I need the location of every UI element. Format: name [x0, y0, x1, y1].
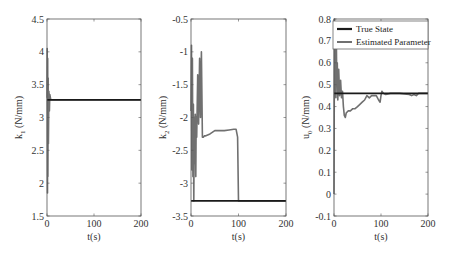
x-tick-label: 100: [374, 218, 389, 229]
y-tick-label: 0.4: [319, 101, 332, 112]
estimated-parameter-line: [47, 49, 141, 193]
axes-box: [47, 19, 141, 216]
y-tick-label: 0: [326, 189, 331, 200]
y-tick-label: -2: [180, 112, 188, 123]
y-tick-label: -3.5: [172, 211, 188, 222]
y-tick-label: 2: [39, 178, 44, 189]
y-tick-label: 0.3: [319, 123, 332, 134]
y-tick-label: 4: [39, 46, 44, 57]
y-tick-label: 2.5: [32, 145, 45, 156]
y-tick-label: 0.6: [319, 57, 332, 68]
panel-k1: 1.522.533.544.50100200t(s)k1 (N/mm): [13, 14, 149, 244]
x-tick-label: 200: [134, 218, 149, 229]
y-axis-label: u0 (N/mm): [300, 96, 314, 139]
y-tick-label: 1.5: [32, 211, 45, 222]
y-tick-label: -1.5: [172, 79, 188, 90]
legend: True State Estimated Parameter: [333, 21, 431, 49]
x-tick-label: 0: [189, 218, 194, 229]
x-tick-label: 100: [87, 218, 102, 229]
estimated-parameter-line: [191, 45, 286, 201]
y-tick-label: 4.5: [32, 14, 45, 25]
y-tick-label: -3: [180, 178, 188, 189]
y-tick-label: 0.8: [319, 14, 332, 25]
x-axis-label: t(s): [374, 231, 387, 243]
x-axis-label: t(s): [232, 231, 245, 243]
y-axis-label: k2 (N/mm): [157, 96, 171, 139]
y-tick-label: -2.5: [172, 145, 188, 156]
x-tick-label: 200: [279, 218, 294, 229]
y-tick-label: 3: [39, 112, 44, 123]
y-tick-label: -0.5: [172, 14, 188, 25]
x-tick-label: 200: [421, 218, 436, 229]
y-axis-label: k1 (N/mm): [13, 96, 27, 139]
y-tick-label: 3.5: [32, 79, 45, 90]
panel-k2: -3.5-3-2.5-2-1.5-1-0.50100200t(s)k2 (N/m…: [157, 14, 294, 244]
y-tick-label: 0.7: [319, 35, 332, 46]
y-tick-label: 0.1: [319, 167, 332, 178]
x-tick-label: 0: [332, 218, 337, 229]
x-axis-label: t(s): [87, 231, 100, 243]
figure: 1.522.533.544.50100200t(s)k1 (N/mm) -3.5…: [0, 0, 450, 256]
y-tick-label: 0.5: [319, 79, 332, 90]
x-tick-label: 0: [45, 218, 50, 229]
y-tick-label: 0.2: [319, 145, 332, 156]
y-tick-label: -1: [180, 46, 188, 57]
legend-estimated-label: Estimated Parameter: [356, 37, 431, 47]
legend-true-state-label: True State: [356, 24, 393, 34]
y-tick-label: -0.1: [315, 211, 331, 222]
x-tick-label: 100: [231, 218, 246, 229]
